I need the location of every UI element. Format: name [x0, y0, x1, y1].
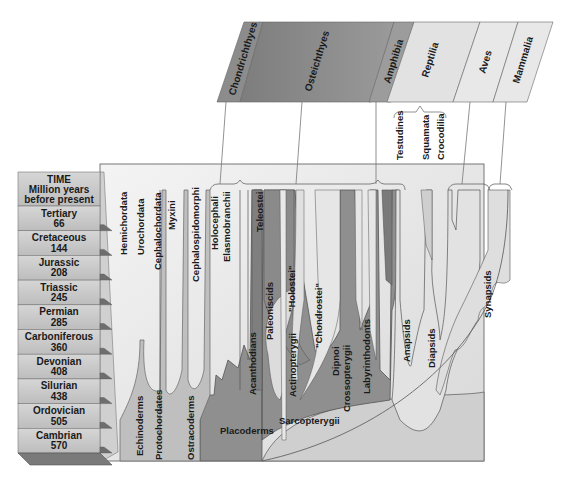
label-paleoniscids: Paleoniscids	[264, 282, 275, 340]
period-name: Carboniferous	[25, 331, 94, 342]
label-teleostei: Teleostei	[254, 192, 265, 232]
period-row-tertiary: Tertiary66	[18, 206, 112, 231]
label-actinopterygii: Actinopterygii	[287, 333, 298, 397]
label-elasmobranchii: Elasmobranchii	[221, 191, 232, 262]
label-chondrostei: "Chondrostei"	[313, 283, 324, 348]
period-mya: 360	[51, 342, 68, 353]
label-squamata: Squamata	[420, 114, 431, 160]
time-column: Tertiary66Cretaceous144Jurassic208Triass…	[18, 172, 118, 465]
period-name: Permian	[39, 306, 78, 317]
label-hemichordata: Hemichordata	[118, 191, 129, 255]
time-header-line3: before present	[24, 194, 94, 205]
label-cephalospidomorphi: Cephalospidomorphi	[190, 187, 201, 282]
label-dipnoi: Dipnoi	[330, 346, 341, 376]
label-synapsids: Synapsids	[482, 270, 493, 318]
label-urochordata: Urochordata	[135, 198, 146, 255]
period-name: Cambrian	[36, 430, 82, 441]
period-mya: 285	[51, 317, 68, 328]
period-name: Jurassic	[39, 257, 80, 268]
label-myxini: Myxini	[166, 200, 177, 230]
label-echinoderms: Echinoderms	[134, 396, 145, 456]
label-crocodilia: Crocodilia	[435, 113, 446, 160]
period-mya: 208	[51, 267, 68, 278]
period-row-ordovician: Ordovician505	[18, 404, 112, 429]
label-anapsids: Anapsids	[401, 319, 412, 362]
period-row-silurian: Silurian438	[18, 379, 112, 404]
period-row-triassic: Triassic245	[18, 280, 112, 305]
period-name: Silurian	[41, 380, 78, 391]
period-name: Devonian	[36, 356, 81, 367]
period-mya: 144	[51, 243, 68, 254]
period-name: Ordovician	[33, 405, 85, 416]
label-placoderms: Placoderms	[220, 425, 274, 436]
phylogeny-diagram: Chondrichthyes Osteichthyes Amphibia Rep…	[0, 0, 564, 485]
label-ostracoderms: Ostracoderms	[185, 396, 196, 460]
period-row-devonian: Devonian408	[18, 354, 112, 379]
period-row-cretaceous: Cretaceous144	[18, 231, 112, 256]
period-mya: 505	[51, 416, 68, 427]
period-mya: 570	[51, 440, 68, 451]
label-diapsids: Diapsids	[426, 328, 437, 368]
period-name: Triassic	[40, 282, 78, 293]
label-cephalochordata: Cephalochordata	[152, 192, 163, 270]
label-sarcopterygii: Sarcopterygii	[279, 415, 340, 426]
label-crossopterygii: Crossopterygii	[341, 345, 352, 412]
period-name: Cretaceous	[32, 232, 87, 243]
period-mya: 438	[51, 391, 68, 402]
period-row-jurassic: Jurassic208	[18, 255, 112, 280]
class-header	[217, 22, 553, 102]
label-labyrinthodonts: Labyrinthodonts	[361, 319, 372, 394]
period-name: Tertiary	[41, 208, 77, 219]
period-mya: 66	[53, 218, 65, 229]
label-protochordates: Protochordates	[153, 390, 164, 460]
period-mya: 245	[51, 292, 68, 303]
period-row-cambrian: Cambrian570	[18, 428, 112, 453]
label-acanthodians: Acanthodians	[247, 332, 258, 395]
period-row-permian: Permian285	[18, 305, 112, 330]
label-holostei: "Holostei"	[286, 266, 297, 312]
period-row-carboniferous: Carboniferous360	[18, 330, 112, 355]
label-testudines: Testudines	[394, 111, 405, 160]
period-mya: 408	[51, 366, 68, 377]
label-holocephali: Holocephali	[209, 196, 220, 250]
